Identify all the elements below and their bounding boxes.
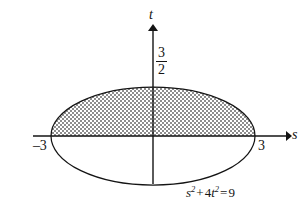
tick-label-s-positive-3: 3 <box>258 139 265 153</box>
ellipse-figure: t s –3 3 3 2 s2+4t2=9 <box>0 0 307 216</box>
figure-canvas <box>0 0 307 216</box>
fraction-numerator: 3 <box>157 46 166 60</box>
equation-equals: = <box>219 185 228 200</box>
tick-label-s-negative-3: –3 <box>33 139 47 153</box>
equation-plus: + <box>195 185 204 200</box>
tick-label-t-three-halves: 3 2 <box>156 46 167 78</box>
arrow-up-icon <box>148 24 158 31</box>
equation-rhs: 9 <box>228 185 235 200</box>
fraction-denominator: 2 <box>157 63 166 77</box>
equation-label: s2+4t2=9 <box>186 186 235 199</box>
axis-label-t: t <box>149 8 153 22</box>
axis-label-s: s <box>292 128 297 142</box>
